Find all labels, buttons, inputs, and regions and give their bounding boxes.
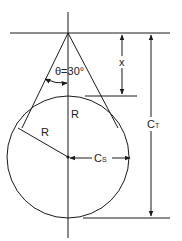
cone-left-side (22, 33, 68, 128)
angle-arc (45, 79, 67, 83)
center-point (66, 155, 69, 158)
diagram-canvas: θ=30° x R R CS CT (0, 0, 182, 241)
radius-vertical-label: R (71, 108, 79, 120)
radius-diagonal-label: R (41, 126, 49, 138)
angle-label: θ=30° (55, 65, 84, 77)
x-label: x (119, 56, 125, 68)
